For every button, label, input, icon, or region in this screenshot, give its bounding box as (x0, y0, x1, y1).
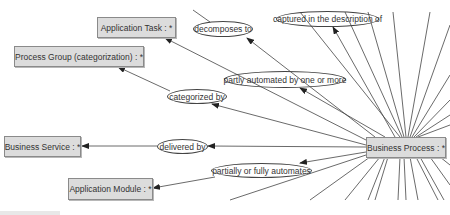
edge-label-captured-in-description[interactable]: captured in the description of (276, 11, 379, 27)
node-application-module[interactable]: Application Module : * (68, 178, 153, 200)
edge-label-categorized-by[interactable]: categorized by (167, 89, 227, 104)
node-business-process[interactable]: Business Process : * (366, 137, 446, 158)
node-process-group[interactable]: Process Group (categorization) : * (14, 46, 144, 67)
edge-label-partly-automated[interactable]: partly automated by one or more (224, 71, 346, 88)
node-application-task[interactable]: Application Task : * (97, 17, 176, 38)
edge-label-decomposes-to[interactable]: decomposes to (193, 21, 253, 37)
edge-label-delivered-by[interactable]: delivered by (157, 139, 208, 154)
scrollbar-fragment (0, 211, 60, 215)
node-business-service[interactable]: Business Service : * (4, 136, 81, 157)
edge-label-partially-or-fully-automates[interactable]: partially or fully automates (211, 163, 312, 178)
